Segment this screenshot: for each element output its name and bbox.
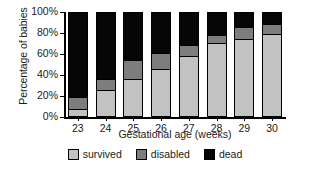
bar-segment-disabled[interactable] (235, 27, 253, 39)
x-tick-mark (78, 117, 79, 121)
x-tick-mark (106, 117, 107, 121)
bar-segment-survived[interactable] (152, 70, 170, 116)
y-tick-mark (60, 12, 64, 13)
bar-segment-dead[interactable] (208, 13, 226, 35)
bar-segment-disabled[interactable] (180, 45, 198, 57)
legend-item-survived[interactable]: survived (68, 148, 122, 160)
y-tick-mark (60, 54, 64, 55)
x-tick-mark (217, 117, 218, 121)
y-tick-label: 20% (18, 89, 58, 101)
legend-swatch-disabled (136, 149, 147, 160)
legend-item-disabled[interactable]: disabled (136, 148, 190, 160)
legend-label: survived (83, 148, 122, 160)
stacked-bar[interactable] (151, 12, 171, 117)
y-axis-line (64, 12, 66, 117)
legend-swatch-survived (68, 149, 79, 160)
bar-segment-dead[interactable] (263, 13, 281, 24)
bar-segment-survived[interactable] (208, 44, 226, 116)
bar-segment-survived[interactable] (263, 35, 281, 116)
chart-legend: surviveddisableddead (0, 148, 310, 160)
bar-segment-dead[interactable] (97, 13, 115, 79)
bar-segment-survived[interactable] (124, 80, 142, 116)
y-tick-label: 60% (18, 47, 58, 59)
stacked-bar[interactable] (207, 12, 227, 117)
y-tick-mark (60, 75, 64, 76)
bar-segment-dead[interactable] (152, 13, 170, 53)
bar-segment-survived[interactable] (180, 57, 198, 116)
legend-swatch-dead (204, 149, 215, 160)
y-tick-label: 0% (18, 110, 58, 122)
y-tick-mark (60, 117, 64, 118)
bar-segment-survived[interactable] (235, 40, 253, 116)
bar-segment-survived[interactable] (97, 91, 115, 116)
x-axis-line (64, 117, 286, 119)
bar-segment-disabled[interactable] (263, 24, 281, 34)
bar-segment-dead[interactable] (69, 13, 87, 97)
bar-segment-dead[interactable] (180, 13, 198, 45)
bar-segment-disabled[interactable] (97, 79, 115, 91)
x-tick-mark (189, 117, 190, 121)
bar-segment-survived[interactable] (69, 110, 87, 116)
stacked-bar[interactable] (96, 12, 116, 117)
y-tick-label: 80% (18, 26, 58, 38)
x-tick-mark (272, 117, 273, 121)
x-axis-title: Gestational age (weeks) (64, 128, 286, 140)
legend-item-dead[interactable]: dead (204, 148, 242, 160)
bar-segment-disabled[interactable] (69, 97, 87, 109)
stacked-bar[interactable] (68, 12, 88, 117)
legend-label: disabled (151, 148, 190, 160)
stacked-bar-chart: Percentage of babies 0%20%40%60%80%100% … (0, 0, 310, 174)
plot-area: 0%20%40%60%80%100% 2324252627282930 (64, 12, 286, 117)
legend-label: dead (219, 148, 242, 160)
y-tick-label: 100% (18, 5, 58, 17)
bar-segment-dead[interactable] (124, 13, 142, 60)
y-tick-mark (60, 33, 64, 34)
y-tick-mark (60, 96, 64, 97)
stacked-bar[interactable] (234, 12, 254, 117)
stacked-bar[interactable] (262, 12, 282, 117)
x-tick-mark (161, 117, 162, 121)
bar-segment-disabled[interactable] (124, 60, 142, 80)
bar-segment-dead[interactable] (235, 13, 253, 27)
stacked-bar[interactable] (123, 12, 143, 117)
stacked-bar[interactable] (179, 12, 199, 117)
bar-segment-disabled[interactable] (152, 53, 170, 70)
x-tick-mark (244, 117, 245, 121)
bar-segment-disabled[interactable] (208, 35, 226, 44)
y-tick-label: 40% (18, 68, 58, 80)
x-tick-mark (133, 117, 134, 121)
